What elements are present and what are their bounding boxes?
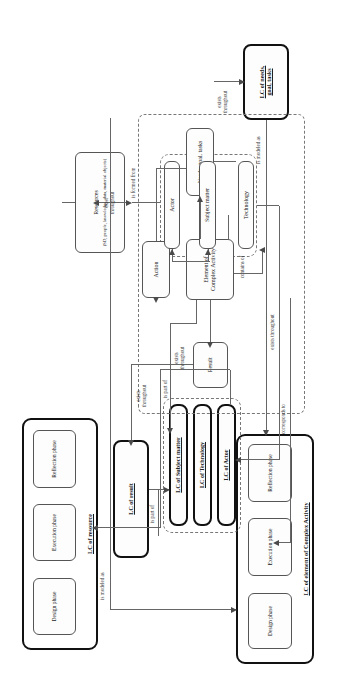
connector-contains-h-technology (262, 250, 263, 274)
phase-reflection-element: Reflection phase (248, 444, 292, 502)
connector-is-modeled-as-top (110, 118, 111, 610)
phase-design-element: Design phase (248, 593, 292, 649)
connector-elem-loop-h (228, 215, 229, 239)
arrowhead-is-modeled-as-bottom (263, 430, 269, 436)
connector-elem-to-action-riser (156, 168, 186, 169)
connector-is-modeled-as-top-drop (110, 609, 236, 610)
connector-elem-exists-h2 (170, 324, 171, 428)
edge-label-exists-throughout-needs: exists throughout (217, 84, 228, 120)
node-subject-matter: Subject matter (199, 161, 216, 249)
node-lc-actor: LC of Actor (217, 404, 236, 526)
arrowhead-resources-to-lc-resource (93, 201, 99, 207)
connector-result-part-h (158, 490, 159, 536)
connector-actor-part-h2 (160, 370, 161, 528)
container-lc-element-of-complex-activity: Design phase Execution phase Reflection … (236, 434, 314, 664)
phase-execution-resource: Execution phase (33, 504, 76, 561)
phase-design-resource: Design phase (33, 578, 76, 635)
arrowhead-is-modeled-as-top (231, 608, 237, 614)
node-technology: Technology (238, 161, 254, 249)
node-lc-result: LC of result (113, 440, 149, 558)
edge-label-exists-throughout-element: exists throughout (174, 336, 185, 380)
node-action: Action (142, 241, 170, 298)
phase-reflection-resource: Reflection phase (33, 430, 76, 488)
arrowhead-is-part-of-actor (92, 526, 98, 532)
node-lc-needs-goal-tasks: LC of needs, goal, tasks (243, 44, 289, 120)
edge-label-is-modeled-as-bottom: is modeled as (256, 122, 262, 178)
diagram-canvas: Design phase Execution phase Reflection … (0, 0, 345, 676)
arrowhead-needs-to-lcneeds (239, 80, 245, 86)
edge-label-is-part-of-actor: is part of (163, 366, 169, 412)
node-lc-technology: LC of Technology (193, 404, 212, 526)
arrowhead-is-part-of-result (164, 488, 170, 494)
node-lc-subject-matter: LC of Subject matter (169, 404, 188, 526)
arrowhead-contains-subject-matter (205, 249, 211, 255)
container-title-lc-resource: LC of resource (86, 420, 93, 648)
arrowhead-result-to-lcresult (128, 440, 134, 446)
edge-label-is-modeled-as-top: is modeled as (100, 540, 106, 600)
edge-label-exists-throughout-group: exists throughout (270, 292, 276, 372)
connector-elem-to-result (210, 300, 211, 342)
connector-is-modeled-as-bottom (266, 120, 267, 430)
connector-actor-part-h1 (230, 370, 231, 404)
connector-result-exists-h (131, 365, 132, 440)
arrowhead-elem-to-needs (197, 196, 203, 202)
edge-label-is-part-of-result: is part of (150, 492, 156, 536)
connector-group-exists-riser (241, 459, 279, 460)
connector-elem-exists-h (196, 300, 197, 324)
node-actor: Actor (164, 161, 180, 249)
phase-execution-element: Execution phase (248, 518, 292, 576)
connector-formed-from-vertical (62, 202, 75, 203)
arrowhead-elem-exists (167, 428, 173, 434)
arrowhead-contains-actor (169, 249, 175, 255)
edge-label-contains-of: contains of (240, 244, 246, 290)
arrowhead-elem-to-action (153, 297, 159, 303)
arrowhead-contains-technology (259, 247, 265, 253)
arrowhead-corresponds-to (273, 541, 279, 547)
connector-elem-exists-vert (170, 323, 196, 324)
connector-corresponds-riser (279, 542, 290, 543)
edge-label-exists-throughout-result: exists throughout (136, 374, 147, 418)
node-result: Result (193, 342, 228, 388)
arrowhead-is-formed-from (126, 201, 132, 207)
connector-needs-loop-vert (214, 161, 236, 162)
arrowhead-elem-to-result (207, 342, 213, 348)
arrowhead-group-exists (235, 458, 241, 464)
edge-label-corresponds-to: corresponds to (281, 388, 287, 450)
connector-corresponds-h (290, 298, 291, 543)
connector-group-exists-vert (257, 205, 279, 206)
connector-contains-subject-vert (180, 261, 210, 262)
connector-elem-to-action (156, 169, 157, 241)
connector-contains-actor-vert (172, 261, 181, 262)
container-lc-resource: Design phase Execution phase Reflection … (22, 418, 98, 650)
connector-elem-to-needs (200, 202, 201, 239)
connector-result-exists-riser (131, 364, 161, 365)
figure-rotation-wrapper: Design phase Execution phase Reflection … (0, 0, 345, 676)
container-title-lc-element-of-complex-activity: LC of element of Complex Activity (302, 436, 309, 662)
edge-label-is-formed-from: is formed from (131, 138, 137, 198)
